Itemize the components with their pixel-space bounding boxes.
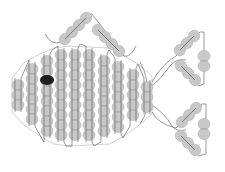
fish-beading-diagram (0, 0, 225, 172)
body-bead (41, 86, 53, 97)
bead-layer (12, 10, 210, 158)
body-bead (127, 100, 139, 111)
body-bead (112, 122, 124, 133)
body-bead (55, 50, 67, 61)
body-bead (98, 86, 110, 97)
body-bead (83, 50, 95, 61)
eye-bead (40, 75, 54, 85)
body-bead (127, 70, 139, 81)
body-bead (83, 80, 95, 91)
diagram-canvas (0, 0, 225, 172)
body-bead (83, 100, 95, 111)
body-bead (141, 92, 153, 103)
tail-bead (198, 129, 210, 140)
body-bead (112, 72, 124, 83)
body-bead (55, 90, 67, 101)
body-bead (41, 116, 53, 127)
body-bead (112, 62, 124, 73)
body-bead (12, 100, 24, 111)
eye-icon (40, 75, 54, 85)
body-bead (26, 114, 38, 125)
body-bead (98, 66, 110, 77)
body-bead (83, 120, 95, 131)
body-bead (12, 80, 24, 91)
body-bead (69, 70, 81, 81)
body-bead (26, 64, 38, 75)
body-bead (112, 92, 124, 103)
body-bead (112, 102, 124, 113)
body-bead (12, 90, 24, 101)
body-bead (69, 60, 81, 71)
body-bead (55, 60, 67, 71)
body-bead (69, 80, 81, 91)
body-bead (69, 120, 81, 131)
body-bead (98, 56, 110, 67)
tail-bead (198, 51, 210, 62)
body-bead (83, 70, 95, 81)
body-bead (55, 120, 67, 131)
body-bead (41, 106, 53, 117)
body-bead (41, 56, 53, 67)
body-bead (98, 106, 110, 117)
body-bead (69, 90, 81, 101)
body-bead (41, 66, 53, 77)
body-bead (127, 90, 139, 101)
body-bead (69, 50, 81, 61)
body-bead (98, 76, 110, 87)
body-bead (55, 80, 67, 91)
body-bead (26, 84, 38, 95)
body-bead (69, 100, 81, 111)
body-bead (55, 70, 67, 81)
body-bead (69, 110, 81, 121)
body-bead (141, 82, 153, 93)
body-bead (141, 102, 153, 113)
body-bead (55, 110, 67, 121)
body-bead (69, 130, 81, 141)
body-bead (41, 126, 53, 137)
body-bead (41, 96, 53, 107)
body-bead (112, 82, 124, 93)
body-bead (112, 112, 124, 123)
body-bead (83, 130, 95, 141)
body-bead (83, 110, 95, 121)
body-bead (98, 96, 110, 107)
tail-bead (198, 61, 210, 72)
tail-bead (198, 119, 210, 130)
body-bead (26, 74, 38, 85)
body-bead (26, 94, 38, 105)
body-bead (98, 126, 110, 137)
body-bead (83, 90, 95, 101)
body-bead (83, 60, 95, 71)
body-bead (55, 100, 67, 111)
body-bead (127, 110, 139, 121)
body-bead (98, 116, 110, 127)
body-bead (127, 80, 139, 91)
body-bead (26, 104, 38, 115)
body-bead (55, 130, 67, 141)
